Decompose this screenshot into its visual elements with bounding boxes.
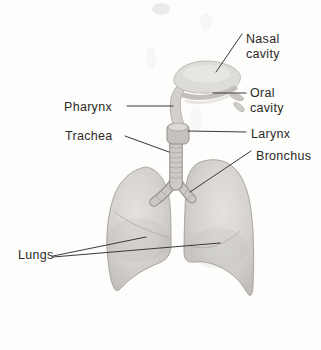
label-lungs: Lungs (18, 248, 54, 262)
respiratory-system-diagram: Nasal cavity Oral cavity Pharynx Trachea… (0, 0, 321, 350)
label-larynx: Larynx (251, 127, 291, 141)
label-oral-cavity: Oral cavity (250, 86, 284, 115)
label-trachea: Trachea (65, 129, 113, 143)
leader-trachea (125, 136, 169, 152)
left-lung-lower-lobe-shading (106, 218, 170, 262)
label-pharynx: Pharynx (64, 100, 112, 114)
trachea-shape (170, 141, 182, 184)
right-lung-lower-lobe-shading (188, 228, 248, 268)
right-lung-shape (184, 160, 254, 296)
label-nasal-cavity: Nasal cavity (246, 32, 283, 61)
larynx-shape (167, 123, 189, 144)
label-bronchus: Bronchus (256, 149, 311, 163)
diagram-canvas: Nasal cavity Oral cavity Pharynx Trachea… (0, 0, 321, 350)
